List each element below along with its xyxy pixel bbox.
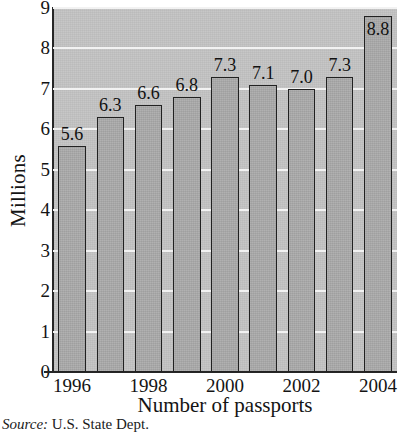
y-tick-label: 7 (26, 79, 50, 98)
y-tick-label: 9 (26, 0, 50, 17)
bar-value-label: 5.6 (58, 125, 86, 143)
y-tick-label: 4 (26, 200, 50, 219)
y-axis-tick-labels: 0123456789 (26, 0, 50, 433)
y-tick-label: 3 (26, 241, 50, 260)
bar (135, 105, 163, 372)
source-text: U.S. State Dept. (52, 416, 149, 432)
plot-area: 5.66.36.66.87.37.17.07.38.8 (53, 8, 397, 372)
bar (364, 16, 392, 372)
x-tick-label: 1996 (42, 375, 102, 396)
bar-value-label: 6.6 (135, 84, 163, 102)
bar-chart-figure: Millions 0123456789 5.66.36.66.87.37.17.… (0, 0, 402, 433)
source-note: Source: U.S. State Dept. (2, 416, 149, 432)
bar (288, 89, 316, 372)
source-prefix: Source: (2, 416, 48, 432)
bar-series: 5.66.36.66.87.37.17.07.38.8 (53, 8, 397, 372)
bar-value-label: 7.1 (249, 64, 277, 82)
x-tick-label: 2004 (348, 375, 402, 396)
bar-value-label: 8.8 (364, 20, 392, 38)
bar (249, 85, 277, 372)
bar-value-label: 7.0 (288, 68, 316, 86)
bar-value-label: 7.3 (211, 56, 239, 74)
bar-value-label: 6.8 (173, 76, 201, 94)
bar-value-label: 6.3 (97, 96, 125, 114)
bar (326, 77, 354, 372)
bar (173, 97, 201, 372)
bar (211, 77, 239, 372)
y-tick-label: 5 (26, 160, 50, 179)
y-tick-label: 6 (26, 119, 50, 138)
y-tick-label: 2 (26, 281, 50, 300)
y-tick-label: 8 (26, 38, 50, 57)
y-tick-label: 1 (26, 322, 50, 341)
bar-value-label: 7.3 (326, 56, 354, 74)
bar (97, 117, 125, 372)
x-axis-title: Number of passports (53, 394, 397, 416)
bar (58, 146, 86, 372)
